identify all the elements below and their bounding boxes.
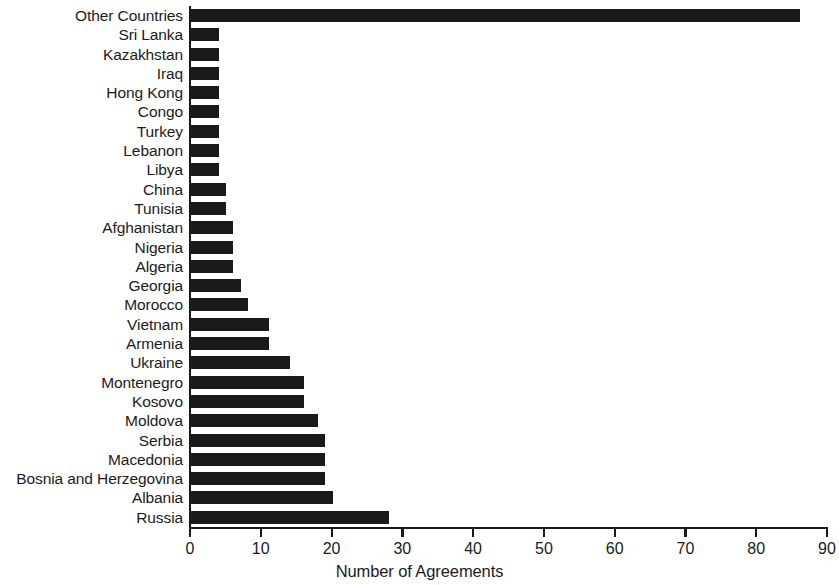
bar-row: [191, 83, 828, 102]
bar: [191, 491, 333, 504]
plot-area: [191, 6, 828, 527]
category-label: Russia: [136, 508, 183, 527]
category-label: Nigeria: [135, 238, 183, 257]
bar: [191, 9, 800, 22]
bar: [191, 376, 304, 389]
bar: [191, 279, 241, 292]
bar: [191, 511, 389, 524]
bar-row: [191, 295, 828, 314]
bar-row: [191, 353, 828, 372]
bar-row: [191, 257, 828, 276]
bar: [191, 395, 304, 408]
bar: [191, 48, 219, 61]
x-tick-label: 10: [252, 539, 270, 558]
bar-chart: Other CountriesSri LankaKazakhstanIraqHo…: [0, 0, 839, 585]
bar-row: [191, 199, 828, 218]
category-label: Montenegro: [101, 373, 183, 392]
bar-row: [191, 508, 828, 527]
bar-row: [191, 102, 828, 121]
x-tick-label: 90: [818, 539, 836, 558]
bar-row: [191, 122, 828, 141]
x-tick: [331, 529, 333, 537]
x-tick: [826, 529, 828, 537]
category-label: Hong Kong: [106, 83, 183, 102]
bar: [191, 414, 318, 427]
bar: [191, 434, 325, 447]
bar-row: [191, 25, 828, 44]
bar: [191, 260, 233, 273]
category-label: Moldova: [125, 411, 183, 430]
bar-row: [191, 276, 828, 295]
bar: [191, 241, 233, 254]
category-label: Bosnia and Herzegovina: [16, 469, 183, 488]
category-label: Kazakhstan: [103, 45, 183, 64]
x-tick-label: 40: [464, 539, 482, 558]
bar-row: [191, 315, 828, 334]
category-label: Other Countries: [75, 6, 183, 25]
x-tick-label: 50: [535, 539, 553, 558]
category-label: Georgia: [129, 276, 183, 295]
bar-row: [191, 488, 828, 507]
category-label: Vietnam: [127, 315, 183, 334]
x-axis-line: [189, 527, 828, 529]
bar-row: [191, 238, 828, 257]
bar: [191, 298, 248, 311]
x-axis-title: Number of Agreements: [0, 562, 839, 581]
x-tick: [260, 529, 262, 537]
bar: [191, 221, 233, 234]
bar: [191, 28, 219, 41]
x-tick-label: 70: [677, 539, 695, 558]
category-label: Armenia: [126, 334, 183, 353]
bar-row: [191, 431, 828, 450]
bar: [191, 318, 269, 331]
x-tick: [472, 529, 474, 537]
bar: [191, 125, 219, 138]
x-tick: [755, 529, 757, 537]
bar-row: [191, 469, 828, 488]
category-label: Turkey: [137, 122, 183, 141]
category-label: Algeria: [135, 257, 183, 276]
x-tick-label: 0: [186, 539, 195, 558]
bar-row: [191, 45, 828, 64]
bar: [191, 337, 269, 350]
bar-row: [191, 180, 828, 199]
bar: [191, 183, 226, 196]
x-tick: [684, 529, 686, 537]
x-tick-label: 30: [393, 539, 411, 558]
bar: [191, 163, 219, 176]
bar: [191, 86, 219, 99]
category-label: Afghanistan: [102, 218, 183, 237]
bar: [191, 356, 290, 369]
category-label: Iraq: [157, 64, 183, 83]
x-tick-label: 20: [323, 539, 341, 558]
x-tick-label: 60: [606, 539, 624, 558]
x-tick: [614, 529, 616, 537]
x-tick-label: 80: [747, 539, 765, 558]
bar: [191, 144, 219, 157]
bar-row: [191, 6, 828, 25]
y-axis-line: [189, 6, 191, 527]
category-label: Ukraine: [130, 353, 183, 372]
category-label: Morocco: [124, 295, 183, 314]
bar-row: [191, 160, 828, 179]
bar-row: [191, 373, 828, 392]
bar: [191, 67, 219, 80]
bar-row: [191, 218, 828, 237]
x-tick: [401, 529, 403, 537]
category-label: Serbia: [139, 431, 183, 450]
bar: [191, 453, 325, 466]
category-label: Congo: [138, 102, 183, 121]
bar: [191, 472, 325, 485]
x-tick: [189, 529, 191, 537]
category-label: China: [143, 180, 183, 199]
bar-row: [191, 411, 828, 430]
category-label: Tunisia: [134, 199, 183, 218]
category-label: Libya: [146, 160, 183, 179]
bar-row: [191, 334, 828, 353]
x-tick: [543, 529, 545, 537]
bar-row: [191, 141, 828, 160]
bar: [191, 105, 219, 118]
category-label: Lebanon: [123, 141, 183, 160]
category-label: Macedonia: [108, 450, 183, 469]
category-label: Albania: [132, 488, 183, 507]
